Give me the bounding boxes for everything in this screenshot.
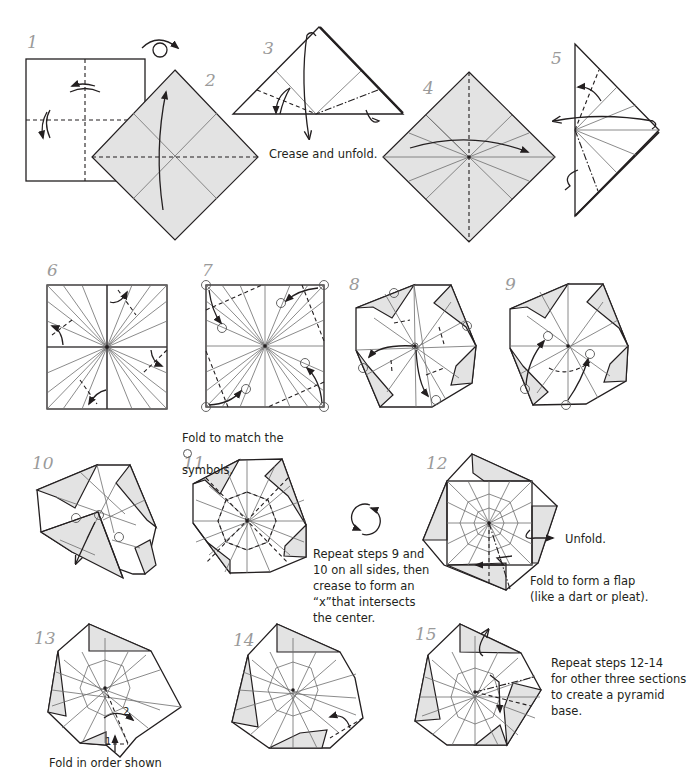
step-4-diamond <box>383 72 555 242</box>
rotate-icon <box>352 504 381 535</box>
step-5-kite <box>554 44 659 216</box>
step-number-13: 13 <box>34 630 56 647</box>
step-7-square <box>202 281 329 412</box>
step-number-9: 9 <box>505 276 516 293</box>
fold-order-label-2: 2 <box>123 704 129 720</box>
step-13-shape <box>48 624 181 757</box>
step-number-6: 6 <box>47 262 58 279</box>
step-number-5: 5 <box>551 50 562 67</box>
step-6-square <box>47 285 167 409</box>
step-7-caption: Fold to match the symbols. <box>182 414 284 478</box>
step-number-10: 10 <box>32 455 54 472</box>
step-number-3: 3 <box>263 40 274 57</box>
step-number-15: 15 <box>415 626 437 643</box>
step-10-folded-shape <box>37 465 156 578</box>
step-number-7: 7 <box>202 262 213 279</box>
step-7-caption-end: symbols. <box>182 463 233 477</box>
step-12-unfold-caption: Unfold. <box>565 531 606 547</box>
step-number-12: 12 <box>426 455 448 472</box>
fold-order-label-1: 1 <box>105 734 111 750</box>
step-11-caption: Repeat steps 9 and 10 on all sides, then… <box>313 546 429 626</box>
step-13-caption: Fold in order shown <box>49 755 162 771</box>
step-8-octagon <box>356 285 476 407</box>
step-12-shape <box>423 454 557 590</box>
step-7-caption-start: Fold to match the <box>182 431 284 445</box>
turn-over-icon <box>142 40 178 57</box>
step-number-14: 14 <box>233 632 255 649</box>
step-number-8: 8 <box>349 276 360 293</box>
step-3-caption: Crease and unfold. <box>269 146 377 162</box>
step-3-triangle <box>233 27 403 138</box>
step-9-octagon <box>510 284 628 410</box>
step-15-caption: Repeat steps 12-14 for other three secti… <box>551 655 686 719</box>
step-number-4: 4 <box>423 80 434 97</box>
step-number-1: 1 <box>27 34 38 51</box>
step-12-caption: Fold to form a flap (like a dart or plea… <box>530 573 649 605</box>
reference-circle-icon <box>183 449 192 458</box>
step-number-2: 2 <box>205 72 216 89</box>
